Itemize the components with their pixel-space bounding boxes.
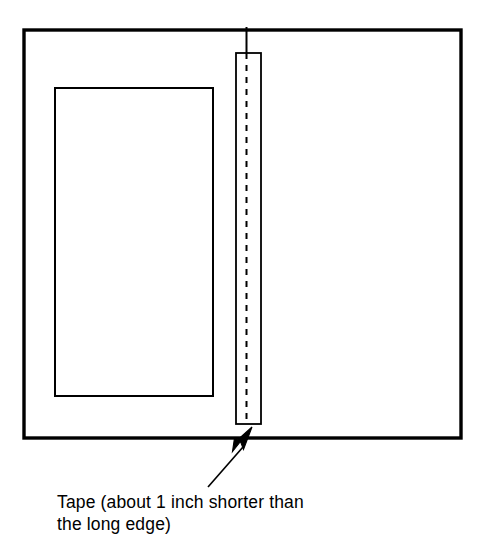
- tape-callout-caption-line-1: Tape (about 1 inch shorter than: [57, 491, 477, 513]
- callout-leader-line: [208, 447, 243, 487]
- tape-strip: [236, 53, 261, 424]
- tape-callout-caption: Tape (about 1 inch shorter than the long…: [57, 491, 477, 535]
- inset-panel-outline: [55, 88, 213, 396]
- tape-callout-caption-line-2: the long edge): [57, 513, 477, 535]
